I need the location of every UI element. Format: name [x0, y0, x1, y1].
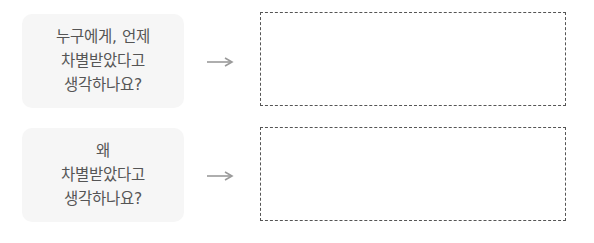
question-box-who-when: 누구에게, 언제 차별받았다고 생각하나요?: [22, 14, 184, 108]
right-arrow-icon: [206, 56, 234, 68]
question-box-why: 왜 차별받았다고 생각하나요?: [22, 128, 184, 222]
question-line: 차별받았다고: [22, 49, 184, 73]
question-line: 누구에게, 언제: [22, 25, 184, 49]
question-line: 생각하나요?: [22, 187, 184, 211]
question-line: 차별받았다고: [22, 163, 184, 187]
question-line: 왜: [22, 139, 184, 163]
answer-box-why[interactable]: [260, 127, 566, 221]
answer-box-who-when[interactable]: [260, 12, 566, 106]
right-arrow-icon: [206, 170, 234, 182]
question-line: 생각하나요?: [22, 73, 184, 97]
